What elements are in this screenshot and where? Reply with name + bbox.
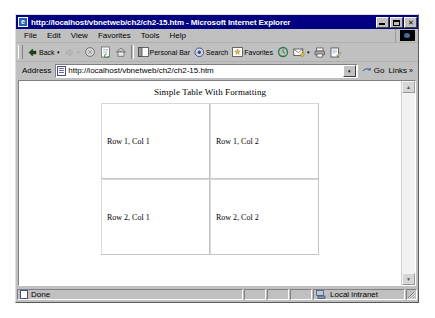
menu-item-list: File Edit View Favorites Tools Help <box>16 31 395 40</box>
table-cell-r1c2: Row 1, Col 2 <box>210 103 319 179</box>
page-title: Simple Table With Formatting <box>19 87 401 97</box>
table-cell-r1c1: Row 1, Col 1 <box>101 103 210 179</box>
window-controls: ✕ <box>376 17 417 28</box>
minimize-button[interactable] <box>376 17 389 28</box>
scroll-up-arrow-icon[interactable]: ▲ <box>402 81 415 93</box>
menu-item-help[interactable]: Help <box>164 31 190 40</box>
search-button-label: Search <box>206 49 228 56</box>
local-intranet-icon <box>316 290 327 299</box>
page-document-icon <box>57 66 66 76</box>
address-label: Address <box>18 66 55 75</box>
links-button[interactable]: Links » <box>388 66 416 75</box>
resize-grip-panel[interactable] <box>406 289 417 300</box>
forward-button[interactable]: ▾ <box>62 44 82 60</box>
history-clock-icon <box>277 46 289 58</box>
table-row: Row 2, Col 1 Row 2, Col 2 <box>101 179 319 255</box>
menu-bar: File Edit View Favorites Tools Help <box>16 29 418 43</box>
status-panel-extra-3 <box>290 289 312 300</box>
title-bar[interactable]: e http://localhost/vbnetweb/ch2/ch2-15.h… <box>16 15 418 29</box>
content-wrapper: Simple Table With Formatting Row 1, Col … <box>16 79 418 288</box>
address-value: http://localhost/vbnetweb/ch2/ch2-15.htm <box>68 66 342 75</box>
menu-item-file[interactable]: File <box>19 31 42 40</box>
status-bar: Done Local intranet <box>16 288 418 302</box>
security-zone-label: Local intranet <box>330 290 378 299</box>
stop-button[interactable] <box>82 44 98 60</box>
table-row: Row 1, Col 1 Row 1, Col 2 <box>101 103 319 179</box>
menu-item-edit[interactable]: Edit <box>42 31 66 40</box>
status-message: Done <box>31 290 50 299</box>
window-title: http://localhost/vbnetweb/ch2/ch2-15.htm… <box>31 18 376 27</box>
formatted-data-table: Row 1, Col 1 Row 1, Col 2 Row 2, Col 1 R… <box>101 103 319 255</box>
ie-animated-logo <box>395 29 418 42</box>
favorites-star-icon <box>232 47 243 57</box>
go-button-label: Go <box>374 66 385 75</box>
back-dropdown-chevron-down-icon[interactable]: ▾ <box>57 49 60 55</box>
back-arrow-icon <box>27 47 38 58</box>
toolbar-grip[interactable] <box>18 45 23 59</box>
stop-icon <box>84 46 96 58</box>
security-zone-panel[interactable]: Local intranet <box>313 289 405 300</box>
search-icon <box>194 47 205 58</box>
mail-dropdown-chevron-down-icon[interactable]: ▾ <box>307 49 310 55</box>
refresh-icon <box>100 46 111 58</box>
status-panel-extra-1 <box>244 289 266 300</box>
browser-window: e http://localhost/vbnetweb/ch2/ch2-15.h… <box>15 14 419 303</box>
close-button[interactable]: ✕ <box>404 17 417 28</box>
scroll-down-arrow-icon[interactable]: ▼ <box>402 273 415 285</box>
status-page-icon <box>20 290 28 299</box>
menu-item-favorites[interactable]: Favorites <box>93 31 136 40</box>
address-bar: Address http://localhost/vbnetweb/ch2/ch… <box>16 62 418 79</box>
back-button[interactable]: Back ▾ <box>25 44 62 60</box>
menu-item-tools[interactable]: Tools <box>136 31 165 40</box>
search-button[interactable]: Search <box>192 44 230 60</box>
address-input[interactable]: http://localhost/vbnetweb/ch2/ch2-15.htm… <box>55 64 357 78</box>
toolbar-separator-1 <box>131 45 134 59</box>
ie-window-icon: e <box>18 17 28 27</box>
mail-icon <box>293 47 305 58</box>
edit-button[interactable] <box>328 44 344 60</box>
table-cell-r2c2: Row 2, Col 2 <box>210 179 319 255</box>
go-arrow-icon <box>362 66 372 76</box>
navigation-toolbar: Back ▾ ▾ <box>16 43 418 62</box>
scrollbar-track[interactable] <box>402 93 415 273</box>
vertical-scrollbar[interactable]: ▲ ▼ <box>401 81 415 285</box>
print-icon <box>314 47 326 58</box>
content-frame: Simple Table With Formatting Row 1, Col … <box>18 80 416 286</box>
status-message-panel: Done <box>17 289 243 300</box>
address-dropdown-chevron-down-icon[interactable]: ▾ <box>343 65 356 77</box>
favorites-button[interactable]: Favorites <box>230 44 275 60</box>
resize-grip-icon <box>406 290 415 299</box>
home-icon <box>115 46 127 58</box>
personal-bar-icon <box>138 47 149 57</box>
table-cell-r2c1: Row 2, Col 1 <box>101 179 210 255</box>
ie-logo-graphic <box>400 30 415 41</box>
forward-arrow-icon <box>64 47 75 58</box>
favorites-button-label: Favorites <box>244 49 273 56</box>
menu-item-view[interactable]: View <box>66 31 93 40</box>
links-button-label: Links <box>388 66 407 75</box>
mail-button[interactable]: ▾ <box>291 44 312 60</box>
forward-dropdown-chevron-down-icon[interactable]: ▾ <box>77 49 80 55</box>
personal-bar-label: Personal Bar <box>150 49 190 56</box>
refresh-button[interactable] <box>98 44 113 60</box>
web-page-document: Simple Table With Formatting Row 1, Col … <box>19 81 401 285</box>
go-button[interactable]: Go <box>358 66 389 76</box>
print-button[interactable] <box>312 44 328 60</box>
status-panel-extra-2 <box>267 289 289 300</box>
maximize-button[interactable] <box>390 17 403 28</box>
history-button[interactable] <box>275 44 291 60</box>
links-chevron-right-icon[interactable]: » <box>409 67 413 74</box>
back-button-label: Back <box>39 49 55 56</box>
personal-bar-button[interactable]: Personal Bar <box>136 44 192 60</box>
home-button[interactable] <box>113 44 129 60</box>
edit-page-icon <box>330 47 342 58</box>
